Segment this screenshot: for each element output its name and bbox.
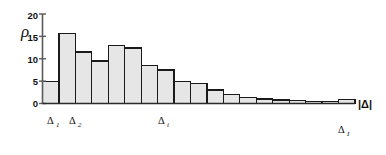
histogram-bar: [191, 83, 207, 103]
x-label-delta-i-sub: i: [167, 121, 169, 129]
histogram-bar: [125, 48, 141, 103]
histogram-bar: [92, 61, 108, 104]
x-axis-end-label: |Δ|: [358, 98, 372, 110]
histogram-bar: [108, 45, 124, 103]
histogram-bar: [141, 65, 157, 103]
x-label-delta-2-sub: 2: [78, 121, 82, 129]
y-tick-label-10: 10: [27, 54, 38, 65]
histogram-figure: 20 15 10 5 0 ρ Δ 1 Δ 2 Δ i Δ I |Δ|: [0, 0, 386, 155]
histogram-bar: [75, 52, 91, 103]
y-axis-title-rho: ρ: [20, 22, 29, 41]
histogram-canvas: 20 15 10 5 0 ρ Δ 1 Δ 2 Δ i Δ I |Δ|: [0, 0, 386, 155]
histogram-bar: [174, 81, 190, 103]
x-label-delta-1-base: Δ: [47, 115, 54, 126]
x-label-delta-1-sub: 1: [56, 121, 60, 129]
histogram-bar: [158, 70, 174, 104]
y-tick-label-0: 0: [33, 98, 38, 109]
x-label-delta-I-base: Δ: [338, 124, 345, 135]
x-label-delta-i-base: Δ: [158, 115, 165, 126]
histogram-bar: [59, 33, 75, 103]
histogram-bar: [240, 97, 256, 103]
figure-background: [0, 0, 386, 155]
y-tick-label-15: 15: [27, 32, 38, 43]
histogram-bar: [223, 95, 239, 104]
histogram-bar: [43, 81, 59, 103]
x-label-delta-2-base: Δ: [69, 115, 76, 126]
y-tick-label-20: 20: [27, 10, 38, 21]
y-tick-label-5: 5: [33, 76, 39, 87]
histogram-bar: [207, 90, 223, 103]
